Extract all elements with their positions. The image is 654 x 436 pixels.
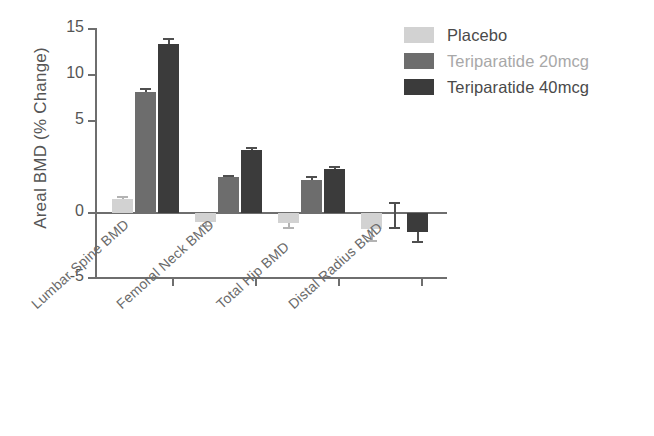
error-bar-cap-total-hip-bmd-teriparatide-20mcg <box>306 176 317 178</box>
y-tick-label-10: 10 <box>50 65 84 81</box>
bar-total-hip-bmd-teriparatide-40mcg <box>324 169 345 213</box>
y-tick-mark-10 <box>88 74 95 76</box>
error-bar-cap-lumbar-spine-bmd-teriparatide-20mcg <box>140 88 151 90</box>
legend-label-teriparatide-40mcg: Teriparatide 40mcg <box>447 78 589 97</box>
bar-lumbar-spine-bmd-placebo <box>112 199 133 213</box>
y-tick-label-5: 5 <box>50 111 84 127</box>
legend-swatch-placebo <box>404 27 434 43</box>
legend-item-placebo: Placebo <box>404 22 589 48</box>
bar-femoral-neck-bmd-teriparatide-20mcg <box>218 177 239 213</box>
error-bar-cap-total-hip-bmd-teriparatide-40mcg <box>329 166 340 168</box>
legend: Placebo Teriparatide 20mcg Teriparatide … <box>404 22 589 100</box>
x-axis-label-total-hip: Total Hip BMD <box>213 238 292 312</box>
error-bar-cap-lumbar-spine-bmd-placebo <box>117 196 128 198</box>
bar-chart: Areal BMD (% Change) 15 10 5 0 -5 Lumbar… <box>0 0 654 436</box>
legend-item-teriparatide-20mcg: Teriparatide 20mcg <box>404 48 589 74</box>
error-bar-cap-distal-radius-bmd-teriparatide-40mcg <box>412 241 423 243</box>
y-tick-label-0: 0 <box>50 203 84 219</box>
y-tick-mark-0 <box>88 212 95 214</box>
error-bar-stem-distal-radius-bmd-teriparatide-40mcg <box>417 232 419 242</box>
error-bar-cap-upper-distal-radius-bmd-teriparatide-20mcg <box>389 202 400 204</box>
bar-lumbar-spine-bmd-teriparatide-40mcg <box>158 44 179 213</box>
bar-femoral-neck-bmd-teriparatide-40mcg <box>241 150 262 213</box>
error-bar-cap-lumbar-spine-bmd-teriparatide-40mcg <box>163 38 174 40</box>
legend-swatch-teriparatide-20mcg <box>404 53 434 69</box>
y-axis-title: Areal BMD (% Change) <box>31 23 51 253</box>
error-bar-cap-femoral-neck-bmd-teriparatide-20mcg <box>223 175 234 177</box>
y-tick-mark-15 <box>88 28 95 30</box>
legend-label-placebo: Placebo <box>447 26 507 45</box>
y-tick-mark-5 <box>88 120 95 122</box>
y-tick-mark-neg5 <box>88 277 95 279</box>
bar-total-hip-bmd-teriparatide-20mcg <box>301 180 322 213</box>
bar-distal-radius-bmd-teriparatide-40mcg <box>407 213 428 232</box>
x-axis-label-distal-radius: Distal Radius BMD <box>285 219 386 312</box>
error-bar-cap-femoral-neck-bmd-teriparatide-40mcg <box>246 147 257 149</box>
y-tick-label-15: 15 <box>50 19 84 35</box>
bar-lumbar-spine-bmd-teriparatide-20mcg <box>135 92 156 213</box>
x-tick-mark-3 <box>421 279 423 286</box>
error-bar-cap-distal-radius-bmd-teriparatide-20mcg <box>389 227 400 229</box>
error-bar-stem-distal-radius-bmd-teriparatide-20mcg <box>394 214 396 226</box>
bar-total-hip-bmd-placebo <box>278 213 299 223</box>
legend-item-teriparatide-40mcg: Teriparatide 40mcg <box>404 74 589 100</box>
x-tick-mark-0 <box>172 279 174 286</box>
error-bar-cap-total-hip-bmd-placebo <box>283 227 294 229</box>
legend-swatch-teriparatide-40mcg <box>404 79 434 95</box>
x-tick-mark-2 <box>338 279 340 286</box>
legend-label-teriparatide-20mcg: Teriparatide 20mcg <box>447 52 589 71</box>
